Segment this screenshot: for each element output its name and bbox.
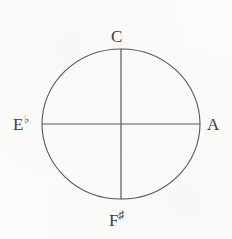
note-label-left: E♭	[13, 114, 29, 133]
note-label-right: A	[207, 114, 219, 133]
note-label-top-text: C	[111, 27, 123, 46]
circle-diagram: C A F♯ E♭	[0, 0, 232, 239]
note-label-right-text: A	[207, 115, 219, 134]
note-label-bottom: F♯	[109, 209, 124, 229]
note-label-left-accidental: ♭	[24, 113, 29, 125]
note-label-top: C	[111, 26, 123, 45]
note-label-left-text: E	[13, 115, 24, 134]
note-label-bottom-accidental: ♯	[118, 208, 124, 222]
